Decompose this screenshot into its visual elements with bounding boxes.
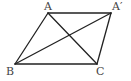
geometry-figure: A A′ B C [0,0,131,81]
label-a: A [43,0,53,13]
label-c: C [96,65,104,78]
diagonal-a-c [48,13,97,64]
segment-c-a-prime [97,13,111,64]
segment-a-b [15,13,48,64]
label-a-prime: A′ [111,0,123,13]
label-b: B [6,65,14,78]
diagonal-b-a-prime [15,13,111,64]
